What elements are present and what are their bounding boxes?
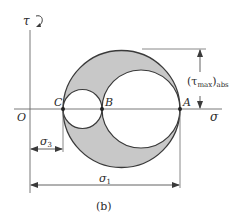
point-a-label: A xyxy=(182,96,191,109)
tau-max-label: (τmax)abs xyxy=(187,75,229,89)
point-b-label: B xyxy=(104,96,113,109)
point-a xyxy=(178,107,182,111)
tau-axis-label: τ xyxy=(23,14,30,28)
point-c-label: C xyxy=(54,96,63,109)
mohr-circle-diagram: τ σ O C B A (τmax)abs σ3 σ1 (b) xyxy=(0,0,239,222)
origin-label: O xyxy=(17,111,26,124)
point-b xyxy=(100,107,104,111)
sigma1-label: σ1 xyxy=(99,172,111,186)
sigma3-label: σ3 xyxy=(40,135,52,149)
sigma-axis-label: σ xyxy=(210,110,219,124)
figure-caption: (b) xyxy=(96,200,112,213)
